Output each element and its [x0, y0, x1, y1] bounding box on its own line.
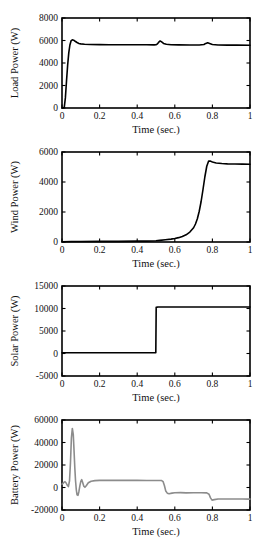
x-tick-label: 0 [60, 111, 65, 121]
x-tick-label: 0 [60, 513, 65, 523]
x-tick-label: 0 [60, 245, 65, 255]
x-tick-label: 0.8 [206, 513, 218, 523]
x-tick-label: 0.8 [206, 245, 218, 255]
y-tick-label: 2000 [39, 81, 58, 91]
y-tick-label: 2000 [39, 207, 58, 217]
chart-panel-wind-power: 00.20.40.60.810200040006000Time (sec.)Wi… [0, 138, 270, 272]
y-tick-label: 40000 [34, 438, 58, 448]
x-tick-label: 0.2 [94, 513, 106, 523]
x-tick-label: 0.6 [169, 379, 181, 389]
x-tick-label: 0.4 [131, 245, 143, 255]
x-tick-label: 0.4 [131, 379, 143, 389]
y-tick-label: 20000 [34, 460, 58, 470]
y-axis-label: Solar Power (W) [9, 295, 21, 367]
x-axis-label: Time (sec.) [132, 392, 180, 404]
chart-panel-load-power: 00.20.40.60.8102000400060008000Time (sec… [0, 4, 270, 138]
y-tick-label: 8000 [39, 13, 58, 23]
x-tick-label: 1 [248, 111, 253, 121]
y-tick-label: 0 [53, 103, 58, 113]
chart-panel-solar-power: 00.20.40.60.81-5000050001000015000Time (… [0, 272, 270, 406]
plot-frame [62, 420, 250, 510]
y-tick-label: -20000 [31, 505, 58, 515]
x-tick-label: 1 [248, 513, 253, 523]
x-tick-label: 0.2 [94, 379, 106, 389]
x-tick-label: 0.2 [94, 111, 106, 121]
y-axis-label: Wind Power (W) [9, 161, 21, 233]
x-tick-label: 1 [248, 245, 253, 255]
battery-power-chart-svg: 00.20.40.60.81-200000200004000060000Time… [0, 406, 270, 540]
x-axis-label: Time (sec.) [132, 124, 180, 136]
y-tick-label: 10000 [34, 304, 58, 314]
y-tick-label: 6000 [39, 36, 58, 46]
x-tick-label: 1 [248, 379, 253, 389]
wind-power-chart-svg: 00.20.40.60.810200040006000Time (sec.)Wi… [0, 138, 270, 272]
x-tick-label: 0.8 [206, 111, 218, 121]
load-power-chart-svg: 00.20.40.60.8102000400060008000Time (sec… [0, 4, 270, 138]
plot-frame [62, 152, 250, 242]
y-axis-label: Battery Power (W) [9, 425, 21, 505]
y-tick-label: 0 [53, 483, 58, 493]
x-tick-label: 0.6 [169, 513, 181, 523]
y-tick-label: 0 [53, 237, 58, 247]
solar-power-chart-svg: 00.20.40.60.81-5000050001000015000Time (… [0, 272, 270, 406]
y-tick-label: 0 [53, 349, 58, 359]
x-tick-label: 0.4 [131, 111, 143, 121]
y-tick-label: -5000 [36, 371, 58, 381]
y-tick-label: 5000 [39, 326, 58, 336]
x-tick-label: 0.8 [206, 379, 218, 389]
y-tick-label: 60000 [34, 415, 58, 425]
x-tick-label: 0.6 [169, 111, 181, 121]
multi-panel-figure: 00.20.40.60.8102000400060008000Time (sec… [0, 0, 270, 546]
y-tick-label: 15000 [34, 281, 58, 291]
plot-frame [62, 18, 250, 108]
x-tick-label: 0.6 [169, 245, 181, 255]
y-tick-label: 4000 [39, 58, 58, 68]
chart-panel-battery-power: 00.20.40.60.81-200000200004000060000Time… [0, 406, 270, 540]
x-axis-label: Time (sec.) [132, 258, 180, 270]
y-tick-label: 4000 [39, 177, 58, 187]
y-tick-label: 6000 [39, 147, 58, 157]
x-tick-label: 0 [60, 379, 65, 389]
x-tick-label: 0.4 [131, 513, 143, 523]
y-axis-label: Load Power (W) [9, 27, 21, 98]
x-tick-label: 0.2 [94, 245, 106, 255]
x-axis-label: Time (sec.) [132, 526, 180, 538]
